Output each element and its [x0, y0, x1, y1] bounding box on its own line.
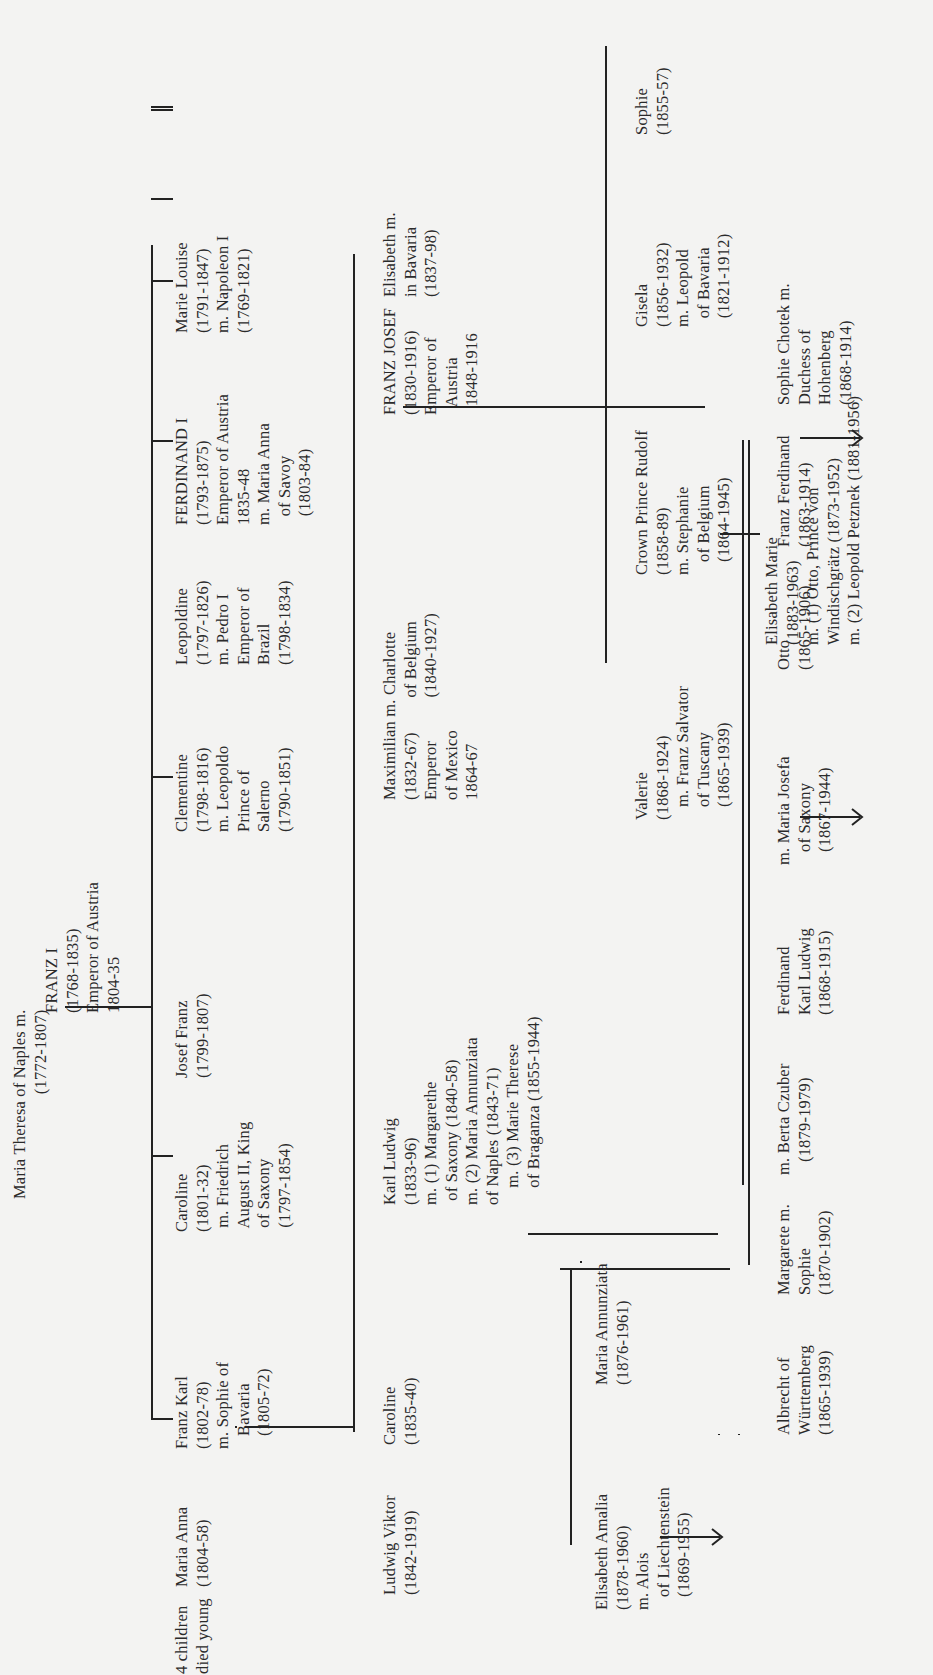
person-ferdinand-i: FERDINAND I (1793-1875) Emperor of Austr… — [172, 394, 316, 525]
braganza-children-bus — [570, 1268, 572, 1545]
tick-clementine — [151, 106, 173, 108]
person-sophie-chotek: Sophie Chotek m. Duchess of Hohenberg (1… — [774, 283, 856, 405]
person-clementine: Clementine (1798-1816) m. Leopoldo Princ… — [172, 745, 295, 832]
person-elisabeth-amalia: Elisabeth Amalia (1878-1960) m. Alois of… — [592, 1487, 695, 1610]
karl-ludwig-children-bus — [718, 1434, 720, 1435]
person-josef-franz: Josef Franz (1799-1807) — [172, 993, 213, 1078]
root-franz-i: FRANZ I (1768-1835) Emperor of Austria 1… — [42, 882, 124, 1013]
person-franz-karl: Franz Karl (1802-78) m. Sophie of Bavari… — [172, 1362, 275, 1449]
person-ferdinand-karl: Ferdinand Karl Ludwig (1868-1915) — [774, 928, 836, 1015]
naples-children-bus — [738, 1434, 740, 1435]
franz-josef-descent — [405, 406, 705, 408]
franz-ferdinand-bus — [748, 440, 750, 1265]
arrow-down-icon-elisabeth-amalia — [660, 1525, 730, 1545]
karl-ludwig-descent-1 — [528, 1233, 718, 1235]
person-maria-annunziata: Maria Annunziata (1876-1961) — [592, 1263, 633, 1385]
tick-four-children — [151, 109, 173, 111]
person-maria-anna: Maria Anna (1804-58) — [172, 1507, 213, 1587]
tick-ferdinand — [151, 1155, 173, 1157]
person-gisela: Gisela (1856-1932) m. Leopold of Bavaria… — [632, 234, 735, 327]
family-tree-diagram: Maria Theresa of Naples m. (1772-1807) F… — [0, 0, 933, 1675]
franz-karl-marriage-line — [235, 1426, 237, 1428]
gen1-bus — [151, 245, 153, 1420]
root-descent-line — [65, 1006, 153, 1008]
braganza-descent — [560, 1268, 730, 1270]
person-ludwig-viktor: Ludwig Viktor (1842-1919) — [380, 1495, 421, 1595]
tick-caroline — [151, 198, 173, 200]
person-caroline-1835: Caroline (1835-40) — [380, 1377, 421, 1445]
person-rudolf: Crown Prince Rudolf (1858-89) m. Stephan… — [632, 430, 735, 575]
person-maximilian: Maximilian m. Charlotte (1832-67) of Bel… — [380, 613, 483, 800]
karl-ludwig-third-marriage — [580, 1261, 582, 1263]
tick-leopoldine — [151, 776, 173, 778]
person-margarete-sophie: Margarete m. Sophie (1870-1902) — [774, 1204, 836, 1295]
person-franz-ferdinand: Franz Ferdinand (1863-1914) — [774, 435, 815, 547]
person-sophie: Sophie (1855-57) — [632, 67, 673, 135]
franz-josef-children-bus — [605, 46, 607, 663]
person-elisabeth: Elisabeth m. in Bavaria (1837-98) — [380, 212, 442, 297]
rudolf-descent — [720, 533, 760, 535]
person-leopoldine: Leopoldine (1797-1826) m. Pedro I Empero… — [172, 580, 295, 665]
naples-children-spine — [742, 451, 744, 453]
person-berta-czuber: m. Berta Czuber (1879-1979) — [774, 1063, 815, 1175]
person-valerie: Valerie (1868-1924) m. Franz Salvator of… — [632, 686, 735, 820]
arrow-down-icon-otto — [800, 805, 870, 825]
person-karl-ludwig: Karl Ludwig (1833-96) m. (1) Margarethe … — [380, 1016, 544, 1205]
tick-maria-anna — [151, 280, 173, 282]
gen2-bus — [353, 254, 355, 1432]
arrow-down-icon-franz-ferdinand — [800, 426, 870, 446]
tick-marie-louise — [151, 1418, 173, 1420]
person-franz-josef: FRANZ JOSEF (1830-1916) Emperor of Austr… — [380, 308, 483, 415]
tick-franz-karl — [151, 440, 173, 442]
person-albrecht: Albrecht of Württemberg (1865-1939) — [774, 1345, 836, 1435]
root-maria-theresa: Maria Theresa of Naples m. (1772-1807) — [10, 1009, 51, 1199]
naples-children-line — [742, 440, 744, 1185]
person-four-children: 4 children died young — [172, 1598, 213, 1674]
person-otto: Otto (1865-1906) — [774, 585, 815, 670]
person-marie-louise: Marie Louise (1791-1847) m. Napoleon I (… — [172, 236, 254, 333]
franz-karl-descent — [245, 1426, 355, 1428]
person-caroline-1801: Caroline (1801-32) m. Friedrich August I… — [172, 1122, 295, 1232]
